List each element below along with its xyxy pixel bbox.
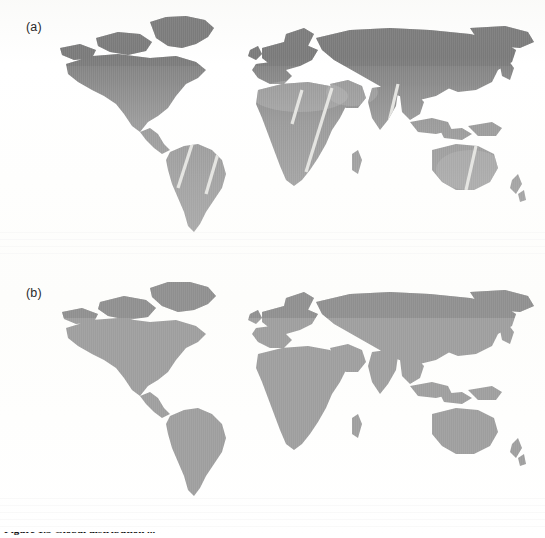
panel-a-land-group	[0, 4, 545, 249]
panel-a: (a)	[0, 4, 545, 249]
scan-ghost-band-lower	[0, 498, 545, 528]
panel-b-map	[0, 272, 545, 497]
figure-caption-text: Figure 1.3 Global distribution ...	[4, 532, 155, 535]
panel-b-land-group	[0, 272, 545, 497]
panel-b-label: (b)	[26, 286, 42, 300]
panel-b: (b)	[0, 272, 545, 497]
world-map-b-svg	[0, 272, 545, 497]
panel-a-map	[0, 4, 545, 249]
figure-caption-strip: Figure 1.3 Global distribution ...	[0, 532, 545, 538]
world-map-a-svg	[0, 4, 545, 249]
panel-a-label: (a)	[26, 20, 42, 34]
figure-container: (a)	[0, 0, 545, 538]
